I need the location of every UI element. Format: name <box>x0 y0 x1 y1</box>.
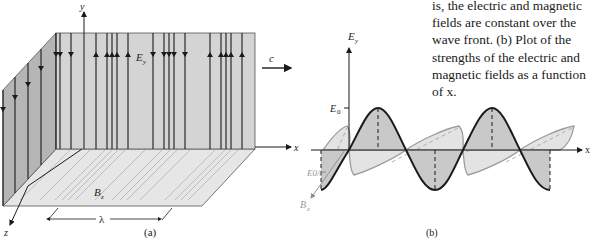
ey-axis-label: E <box>347 30 355 42</box>
bz-axis-subscript: z <box>306 205 310 213</box>
x-axis-label-b: x <box>585 144 590 155</box>
wavelength-label: λ <box>99 213 105 225</box>
panel-a-3d-wave: y x z E y B z c λ (a) <box>0 1 299 239</box>
y-axis-label: y <box>79 1 85 12</box>
figure: y x z E y B z c λ (a) <box>0 0 593 240</box>
bz-axis-label: B <box>300 199 306 210</box>
x-axis-label: x <box>293 142 299 153</box>
z-axis-label: z <box>3 227 8 238</box>
panel-a-label: (a) <box>144 226 157 239</box>
b-field-subscript: z <box>100 193 104 201</box>
b-field-label: B <box>94 186 101 198</box>
e0-label: E <box>329 103 336 114</box>
e-field-label: E <box>135 51 143 63</box>
b0-label: E0/c <box>306 168 324 178</box>
panel-b-wave-plot: E y E 0 E0/c B z x (b) <box>300 30 590 239</box>
speed-label: c <box>269 52 274 64</box>
wavefront-plane <box>56 33 255 149</box>
panel-b-label: (b) <box>426 227 438 239</box>
ey-axis-subscript: y <box>354 37 359 45</box>
e0-subscript: 0 <box>337 108 341 116</box>
